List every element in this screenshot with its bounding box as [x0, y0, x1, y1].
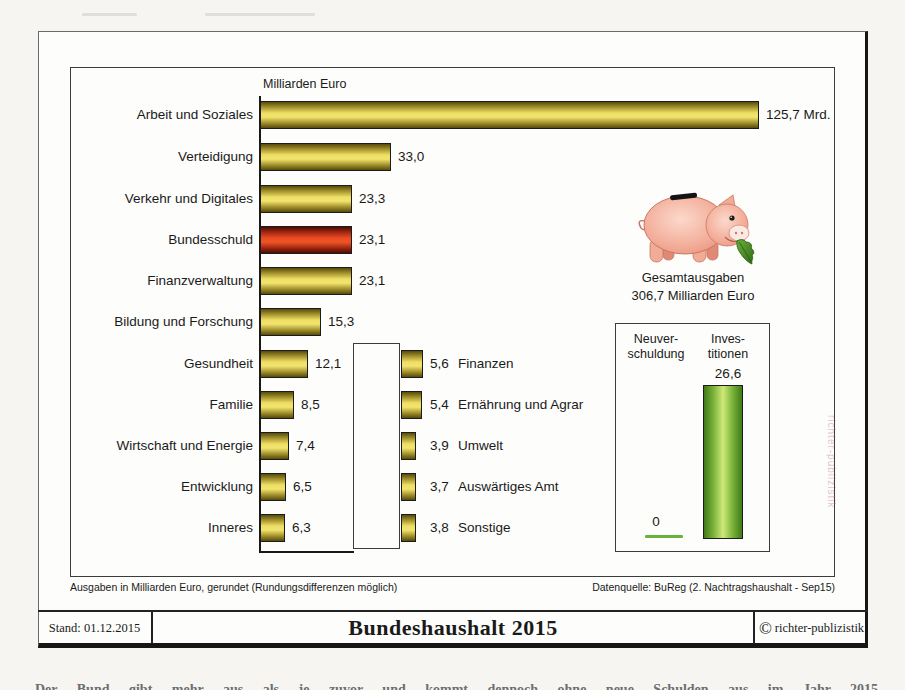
main-bar-label: Inneres	[70, 519, 253, 537]
total-caption: Gesamtausgaben 306,7 Milliarden Euro	[608, 269, 778, 305]
main-bar-label: Wirtschaft und Energie	[70, 437, 253, 455]
main-bar-label: Gesundheit	[70, 355, 253, 373]
main-bar-value: 6,5	[293, 478, 312, 496]
main-bar	[260, 473, 286, 501]
sub-bar-label: Auswärtiges Amt	[458, 478, 559, 496]
neuverschuldung-zero-bar	[645, 535, 683, 538]
sub-bar	[401, 432, 416, 460]
main-bar	[260, 350, 308, 378]
total-caption-line2: 306,7 Milliarden Euro	[608, 287, 778, 305]
main-bar-value: 15,3	[328, 313, 354, 331]
main-bar-value: 6,3	[292, 519, 311, 537]
stand-date: Stand: 01.12.2015	[38, 612, 153, 644]
title-bar: Stand: 01.12.2015 Bundeshaushalt 2015 © …	[38, 610, 868, 644]
sub-bar	[401, 514, 416, 542]
sub-bar-label: Finanzen	[458, 355, 514, 373]
scan-smudge	[205, 13, 315, 16]
infographic-page: Milliarden Euro Arbeit und Soziales125,7…	[0, 0, 905, 690]
main-bar-value: 125,7 Mrd.	[766, 106, 831, 124]
main-bar	[260, 101, 759, 129]
main-bar-value: 33,0	[398, 148, 424, 166]
sub-bar	[401, 473, 416, 501]
main-bar-label: Verkehr und Digitales	[70, 190, 253, 208]
inset-box: Neuver- schuldung Inves- titionen 26,6 0	[615, 323, 770, 552]
main-bar	[260, 391, 294, 419]
main-bar	[260, 185, 352, 213]
main-bar-label: Bundesschuld	[70, 231, 253, 249]
publisher-credit: © richter-publizistik	[755, 612, 868, 644]
footnote-source: Datenquelle: BuReg (2. Nachtragshaushalt…	[430, 581, 835, 593]
publisher-name: richter-publizistik	[775, 621, 864, 636]
main-bar-value: 23,3	[359, 190, 385, 208]
inset-right-label: Inves- titionen	[692, 332, 764, 362]
main-bar-value: 12,1	[315, 355, 341, 373]
main-bar-label: Familie	[70, 396, 253, 414]
main-bar-value: 8,5	[301, 396, 320, 414]
main-bar	[260, 226, 352, 254]
main-bar-value: 23,1	[359, 231, 385, 249]
piggy-bank-illustration	[633, 189, 758, 267]
main-bar-value: 7,4	[296, 437, 315, 455]
main-bar-label: Arbeit und Soziales	[70, 106, 253, 124]
main-bar	[260, 308, 321, 336]
main-bar-label: Verteidigung	[70, 148, 253, 166]
main-bar-label: Finanzverwaltung	[70, 272, 253, 290]
sub-bar-value: 3,8	[430, 519, 449, 537]
main-bar-value: 23,1	[359, 272, 385, 290]
subchart-connector-rect	[353, 343, 400, 549]
main-bar	[260, 432, 289, 460]
footnote-note: Ausgaben in Milliarden Euro, gerundet (R…	[70, 581, 397, 593]
axis-unit-label: Milliarden Euro	[263, 77, 346, 91]
sub-bar-label: Ernährung und Agrar	[458, 396, 583, 414]
inset-left-label: Neuver- schuldung	[620, 332, 692, 362]
page-title: Bundeshaushalt 2015	[153, 612, 755, 644]
sub-bar-label: Umwelt	[458, 437, 503, 455]
vertical-watermark: richter-publizistik	[826, 415, 837, 555]
neuverschuldung-value: 0	[620, 514, 692, 529]
investitionen-value: 26,6	[692, 366, 764, 381]
axis-baseline-connector	[259, 551, 354, 553]
piggy-bank-icon	[633, 189, 758, 267]
cropped-caption-fragment: Der Bund gibt mehr aus als je zuvor und …	[35, 682, 880, 690]
sub-bar-label: Sonstige	[458, 519, 511, 537]
main-bar	[260, 514, 285, 542]
main-bar-label: Entwicklung	[70, 478, 253, 496]
sub-bar-value: 3,7	[430, 478, 449, 496]
total-caption-line1: Gesamtausgaben	[608, 269, 778, 287]
sub-bar	[401, 391, 422, 419]
sub-bar-value: 5,4	[430, 396, 449, 414]
main-bar	[260, 143, 391, 171]
investitionen-bar	[703, 385, 743, 539]
main-bar-label: Bildung und Forschung	[70, 313, 253, 331]
sub-bar-value: 3,9	[430, 437, 449, 455]
sub-bar-value: 5,6	[430, 355, 449, 373]
copyright-icon: ©	[759, 620, 772, 637]
main-bar	[260, 267, 352, 295]
sub-bar	[401, 350, 423, 378]
scan-smudge	[82, 13, 137, 16]
